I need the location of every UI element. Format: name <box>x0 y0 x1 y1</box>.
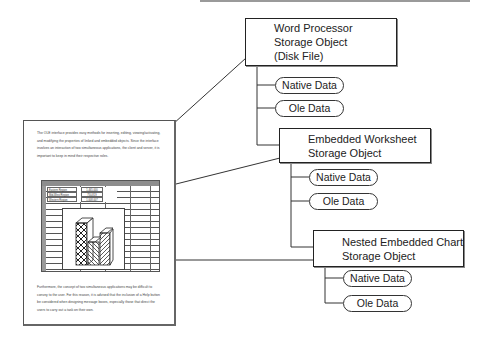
word-processor-storage-object: Word Processor Storage Object (Disk File… <box>245 18 397 66</box>
box-title-line: Nested Embedded Chart <box>342 235 463 249</box>
word-native-data-stream: Native Data <box>275 77 344 94</box>
box-title-line: Storage Object <box>342 249 463 263</box>
embedded-worksheet-storage-object: Embedded Worksheet Storage Object <box>279 128 431 163</box>
region-value: 1,008,007 <box>81 197 103 202</box>
box-title-line: Storage Object <box>274 35 396 49</box>
box-title-line: Word Processor <box>274 21 396 35</box>
grid-line <box>130 186 131 271</box>
worksheet-row: Western Region 1,008,007 <box>47 197 117 202</box>
chart-ole-data-stream: Ole Data <box>343 295 412 312</box>
worksheet-native-data-stream: Native Data <box>309 169 378 186</box>
document-paragraph-top: The OLE interface provides easy methods … <box>37 130 162 160</box>
box-title-line: (Disk File) <box>274 49 396 63</box>
nested-bar-chart <box>62 208 125 270</box>
word-ole-data-stream: Ole Data <box>275 100 344 117</box>
box-title-line: Embedded Worksheet <box>308 132 430 146</box>
box-title-line: Storage Object <box>308 146 430 160</box>
region-label: Western Region <box>47 197 77 202</box>
nested-chart-storage-object: Nested Embedded Chart Storage Object <box>313 230 464 267</box>
worksheet-ole-data-stream: Ole Data <box>309 193 378 210</box>
grid-line <box>150 186 151 271</box>
document-paragraph-bottom: Furthermore, the concept of two simultan… <box>37 284 162 314</box>
chart-native-data-stream: Native Data <box>343 270 412 287</box>
bar-chart-icon <box>63 209 126 271</box>
worksheet-data: Eastern Region 1,465,000 Mid-West Region… <box>47 187 117 202</box>
